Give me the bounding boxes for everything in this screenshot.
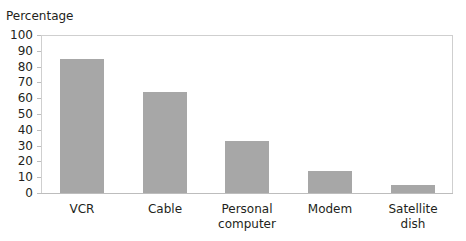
- y-tick: [37, 146, 41, 147]
- y-tick-label: 20: [0, 154, 33, 168]
- y-tick: [37, 98, 41, 99]
- y-tick: [37, 130, 41, 131]
- y-tick-label: 90: [0, 44, 33, 58]
- y-tick-label: 30: [0, 139, 33, 153]
- y-tick: [37, 114, 41, 115]
- y-tick-label: 60: [0, 91, 33, 105]
- category-label: Satellite dish: [373, 202, 453, 232]
- bar: [308, 171, 352, 193]
- y-tick: [37, 67, 41, 68]
- y-tick-label: 80: [0, 60, 33, 74]
- bar: [60, 59, 104, 193]
- y-tick: [37, 161, 41, 162]
- y-tick-label: 0: [0, 186, 33, 200]
- category-label: Cable: [125, 202, 205, 217]
- y-tick-label: 40: [0, 123, 33, 137]
- bar-chart: Percentage 0102030405060708090100 VCRCab…: [0, 0, 466, 241]
- plot-frame-top: [41, 35, 452, 36]
- y-tick: [37, 177, 41, 178]
- y-axis-label: Percentage: [6, 9, 74, 23]
- category-label: Personal computer: [207, 202, 287, 232]
- category-label: VCR: [42, 202, 122, 217]
- bar: [143, 92, 187, 193]
- bar: [225, 141, 269, 193]
- y-tick: [37, 51, 41, 52]
- y-tick-label: 10: [0, 170, 33, 184]
- y-tick-label: 50: [0, 107, 33, 121]
- category-label: Modem: [290, 202, 370, 217]
- bar: [391, 185, 435, 193]
- y-tick: [37, 35, 41, 36]
- y-axis-line: [41, 35, 42, 193]
- y-tick: [37, 193, 41, 194]
- y-tick: [37, 82, 41, 83]
- y-tick-label: 70: [0, 75, 33, 89]
- y-tick-label: 100: [0, 28, 33, 42]
- x-axis-line: [41, 193, 453, 194]
- plot-frame-right: [452, 35, 453, 193]
